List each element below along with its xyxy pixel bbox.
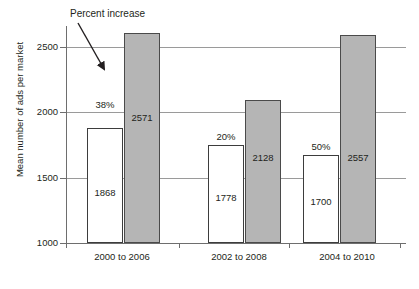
bar-gray-group3 — [340, 35, 376, 243]
bar-value-white-group2: 1778 — [208, 192, 244, 203]
y-tick-label-2500: 2500 — [24, 42, 58, 52]
x-tick-mark-0 — [66, 243, 67, 248]
y-tick-label-2000: 2000 — [24, 107, 58, 117]
bar-value-gray-group3: 2557 — [340, 152, 376, 163]
bar-value-gray-group2: 2128 — [245, 152, 281, 163]
x-tick-mark-3 — [400, 243, 401, 248]
bar-gray-group1 — [124, 33, 160, 243]
x-tick-label-2000-to-2006: 2000 to 2006 — [63, 251, 181, 262]
y-axis-line — [66, 26, 67, 243]
bar-value-white-group1: 1868 — [87, 187, 123, 198]
y-tick-label-1500: 1500 — [24, 173, 58, 183]
bar-gray-group2 — [245, 100, 281, 243]
x-tick-mark-2 — [289, 243, 290, 248]
percent-label-group3: 50% — [303, 141, 339, 152]
bar-white-group1 — [87, 128, 123, 243]
bar-value-gray-group1: 2571 — [124, 112, 160, 123]
x-tick-mark-1 — [179, 243, 180, 248]
x-tick-label-2004-to-2010: 2004 to 2010 — [292, 251, 402, 262]
y-tick-mark-1500 — [60, 178, 66, 179]
annotation-percent-increase: Percent increase — [70, 8, 145, 20]
y-tick-mark-2000 — [60, 112, 66, 113]
x-tick-label-2002-to-2008: 2002 to 2008 — [185, 251, 293, 262]
y-tick-mark-2500 — [60, 47, 66, 48]
bar-value-white-group3: 1700 — [303, 196, 339, 207]
y-tick-label-1000: 1000 — [24, 238, 58, 248]
bar-chart: 2500 2000 1500 1000 Mean number of ads p… — [0, 0, 419, 289]
annotation-arrow-icon — [60, 14, 130, 84]
x-axis-line — [66, 243, 406, 244]
percent-label-group1: 38% — [87, 99, 123, 110]
percent-label-group2: 20% — [208, 131, 244, 142]
y-axis-title: Mean number of ads per market — [14, 15, 25, 205]
